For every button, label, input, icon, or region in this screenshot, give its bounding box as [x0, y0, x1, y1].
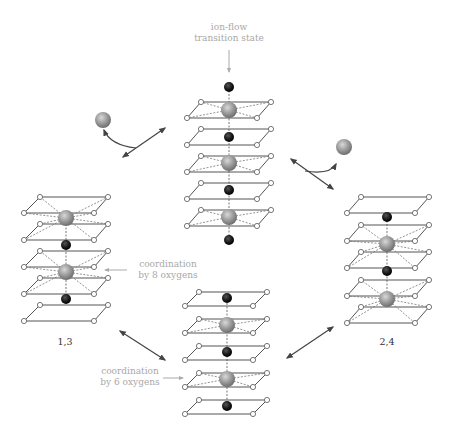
stack-1-3-label: 1,3 [50, 336, 80, 347]
transition-state-label-line2: transition state [189, 33, 269, 44]
exchange-arrow-bottom-left [120, 331, 165, 360]
exchange-arrow-bottom-right [287, 327, 333, 358]
stack-2-4 [344, 194, 431, 325]
ion-channel-diagram [0, 0, 456, 442]
coord6-label-line1: coordination [95, 366, 165, 377]
stack-transition-state [184, 82, 273, 245]
coord8-label: coordination by 8 oxygens [130, 259, 206, 281]
transition-state-label: ion-flow transition state [189, 22, 269, 44]
stack-six-coordination [182, 289, 269, 416]
exit-arrow-right [291, 139, 352, 189]
coord8-label-line2: by 8 oxygens [130, 270, 206, 281]
coord6-label: coordination by 6 oxygens [95, 366, 165, 388]
exiting-ion-right [336, 139, 352, 155]
stack-1-3 [21, 194, 110, 323]
exit-arrow-left [95, 112, 165, 157]
coord8-label-line1: coordination [130, 259, 206, 270]
exiting-ion-left [95, 112, 111, 128]
coord6-label-line2: by 6 oxygens [95, 377, 165, 388]
transition-state-label-line1: ion-flow [189, 22, 269, 33]
stack-2-4-label: 2,4 [372, 336, 402, 347]
